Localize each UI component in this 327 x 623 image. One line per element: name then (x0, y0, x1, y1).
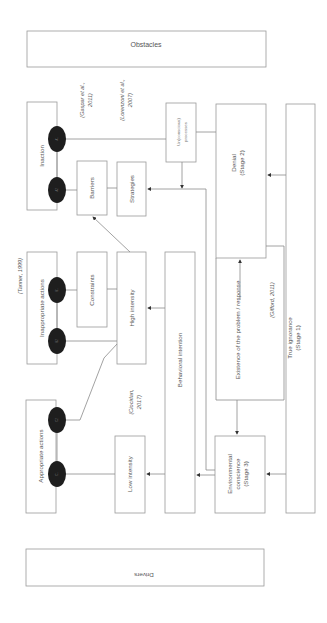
node-c2: C2 (48, 407, 66, 433)
citation-ciocirlan: (Ciocirlan, 2017) (128, 389, 142, 414)
node-a1: A1 (48, 126, 66, 152)
barriers-box: Barriers (77, 161, 107, 215)
env-conscience-line1: Environmental (226, 454, 233, 494)
unconscious-processes-box: Un(conscious) processes (166, 103, 196, 162)
citation-tanner: (Tanner, 1999) (17, 258, 23, 294)
connector-arrow (93, 217, 130, 252)
low-intensity-box: Low intensity (115, 436, 145, 513)
node-b1: B1 (48, 277, 66, 303)
citation-lorenzoni: (Lorenzoni et al., 2007) (119, 79, 133, 121)
node-b1-label: B1 (55, 288, 59, 292)
citation-lorenzoni-line1: (Lorenzoni et al., (119, 79, 125, 121)
low-intensity-label: Low intensity (126, 455, 133, 492)
citation-ciocirlan-line1: (Ciocirlan, (128, 389, 134, 414)
denial-line1: Denial (230, 154, 237, 172)
existence-of-problem-region: Existence of the problem / response (216, 246, 284, 400)
diagram-canvas: Obstacles Drivers (Gaspar et al., 2011) … (0, 0, 327, 623)
true-ignorance-box: True ignorance (Stage 1) (286, 104, 315, 513)
node-b2: B2 (48, 328, 66, 354)
unconscious-processes-line1: Un(conscious) (176, 117, 181, 146)
inaction-label: Inaction (38, 145, 45, 167)
drivers-box: Drivers (26, 549, 264, 586)
node-a1-label: A1 (55, 137, 59, 141)
appropriate-actions-label: Appropriate actions (37, 429, 44, 482)
env-conscience-line2: conscience (234, 458, 241, 490)
citation-gifford: (Gifford, 2011) (269, 282, 275, 318)
node-a2: A2 (48, 177, 66, 203)
unconscious-processes-line2: processes (183, 121, 188, 142)
citation-lorenzoni-line2: 2007) (127, 93, 133, 108)
inappropriate-actions-label: Inappropriate actions (38, 279, 45, 337)
denial-line2: (Stage 2) (238, 150, 245, 175)
high-intensity-label: High intensity (128, 289, 135, 327)
node-c1: C1 (48, 461, 66, 487)
citation-ciocirlan-line2: 2017) (136, 395, 142, 410)
barriers-label: Barriers (88, 177, 95, 199)
high-intensity-box: High intensity (117, 252, 146, 364)
environmental-conscience-box: Environmental conscience (Stage 3) (215, 436, 265, 513)
node-b2-label: B2 (55, 339, 59, 343)
node-c2-label: C2 (55, 418, 59, 422)
citation-gaspar-line1: (Gaspar et al., (79, 82, 85, 117)
citation-gaspar-line2: 2011) (87, 93, 93, 108)
constraints-box: Constraints (77, 252, 107, 327)
node-c1-label: C1 (55, 472, 59, 476)
constraints-label: Constraints (88, 274, 95, 305)
obstacles-box: Obstacles (27, 31, 266, 67)
obstacles-label: Obstacles (130, 41, 162, 48)
node-a2-label: A2 (55, 188, 59, 192)
citation-gaspar: (Gaspar et al., 2011) (79, 82, 93, 117)
true-ignorance-line1: True ignorance (286, 317, 293, 359)
strategies-label: Strategies (128, 175, 135, 203)
behavioral-intention-label: Behavioral intention (176, 332, 183, 387)
drivers-label: Drivers (134, 572, 154, 579)
denial-box: Denial (Stage 2) (216, 104, 266, 258)
env-conscience-line3: (Stage 3) (242, 461, 249, 486)
strategies-box: Strategies (117, 162, 146, 216)
connector (62, 344, 117, 420)
true-ignorance-line2: (Stage 1) (294, 325, 301, 350)
behavioral-intention-box: Behavioral intention (165, 252, 195, 513)
